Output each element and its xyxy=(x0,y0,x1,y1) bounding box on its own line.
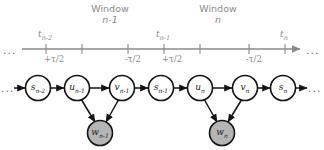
node-circle-v-n-1[interactable] xyxy=(110,76,135,101)
chain-trailing-ellipsis: ... xyxy=(308,82,322,95)
arrow-v-n-1-to-w-n-1 xyxy=(106,99,119,122)
timeline-axis xyxy=(22,44,300,54)
tick-offset-label-2: -τ/2 xyxy=(125,54,141,64)
axis-trailing-ellipsis: ... xyxy=(306,44,320,57)
node-circle-s-n-1[interactable] xyxy=(149,76,174,101)
node-circle-s-n-2[interactable] xyxy=(26,76,51,101)
tick-label-t-n-2: tn-2 xyxy=(38,29,52,42)
tick-label-t-n-1: tn-1 xyxy=(156,29,170,42)
diagram-canvas: Window n-1 Window n tn-2 tn-1 tn +τ/2 -τ… xyxy=(0,0,324,150)
arrow-v-n-to-w-n xyxy=(228,99,242,122)
diagram-svg xyxy=(0,0,324,150)
tick-offset-label-1: +τ/2 xyxy=(44,54,64,64)
node-circle-u-n[interactable] xyxy=(188,76,213,101)
node-circle-v-n[interactable] xyxy=(233,76,258,101)
window-label-n-1: Window n-1 xyxy=(72,3,148,25)
arrow-u-n-1-to-w-n-1 xyxy=(81,99,95,122)
arrow-u-n-to-w-n xyxy=(204,99,217,122)
window-label-n-title: Window xyxy=(199,3,236,14)
tick-offset-label-4: -τ/2 xyxy=(246,54,262,64)
axis-leading-ellipsis: ... xyxy=(3,44,17,57)
node-circle-u-n-1[interactable] xyxy=(65,76,90,101)
node-circle-w-n[interactable] xyxy=(210,121,235,146)
tick-label-t-n-2-sub: n-2 xyxy=(42,34,53,42)
tick-label-t-n: tn xyxy=(280,29,288,42)
observation-node-circles xyxy=(88,121,235,146)
node-circle-s-n[interactable] xyxy=(271,76,296,101)
tick-label-t-n-1-sub: n-1 xyxy=(160,34,171,42)
chain-leading-ellipsis: ... xyxy=(1,82,15,95)
window-label-n-subtitle: n xyxy=(180,14,256,25)
tick-offset-label-3: +τ/2 xyxy=(162,54,182,64)
window-label-n-1-title: Window xyxy=(91,3,128,14)
window-label-n-1-subtitle: n-1 xyxy=(72,14,148,25)
node-circle-w-n-1[interactable] xyxy=(88,121,113,146)
observation-arrows xyxy=(81,99,242,122)
tick-label-t-n-sub: n xyxy=(284,34,288,42)
window-label-n: Window n xyxy=(180,3,256,25)
chain-node-circles xyxy=(26,76,296,101)
